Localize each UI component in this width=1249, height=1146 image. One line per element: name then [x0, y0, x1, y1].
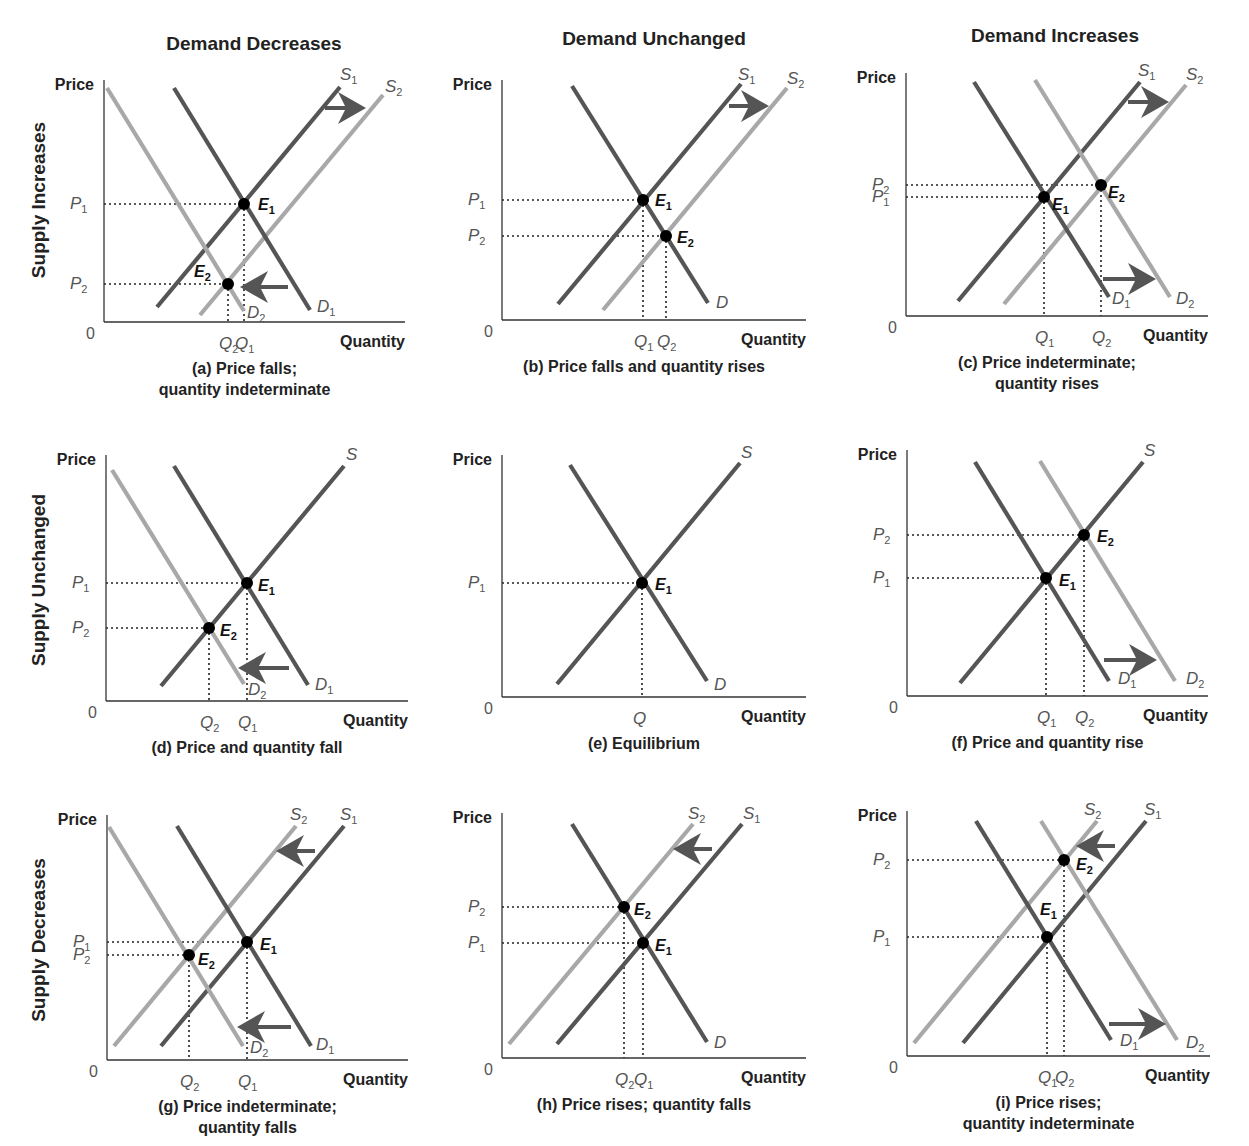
panel-caption: (e) Equilibrium: [588, 735, 700, 752]
curve-label-s2: S2: [688, 804, 705, 825]
curve-label-s1: S1: [340, 805, 357, 826]
panel-d: PriceQuantity0SD1D2E1E2P1P2Q2Q1(d) Price…: [57, 445, 408, 756]
price-tick-label: P2: [873, 850, 890, 871]
quantity-axis-label: Quantity: [340, 333, 405, 350]
quantity-tick-label: Q2: [1055, 1068, 1074, 1089]
curve-s1: [557, 824, 742, 1044]
quantity-tick-label: Q1: [238, 713, 257, 734]
curve-s2: [603, 88, 787, 310]
panel-caption: (h) Price rises; quantity falls: [537, 1096, 751, 1113]
panel-caption: (a) Price falls;: [192, 360, 297, 377]
panel-i: PriceQuantity0S2S1D1D2E1E2P2P1Q1Q2(i) Pr…: [858, 800, 1210, 1132]
panel-e: PriceQuantity0SDE1P1Q(e) Equilibrium: [453, 443, 806, 752]
quantity-axis-label: Quantity: [741, 331, 806, 348]
equilibrium-label-e2: E2: [194, 263, 211, 283]
price-tick-label: P1: [873, 927, 890, 948]
equilibrium-label-e2: E2: [220, 622, 237, 642]
quantity-tick-label: Q1: [238, 1072, 257, 1093]
quantity-tick-label: Q: [633, 709, 646, 728]
curve-d: [572, 86, 708, 303]
quantity-tick-label: Q1: [235, 334, 254, 355]
curve-label-d1: D1: [1118, 669, 1136, 690]
equilibrium-point-e2: [203, 622, 215, 634]
curve-label-d: D: [716, 293, 728, 312]
equilibrium-label-e1: E1: [1059, 572, 1076, 592]
curve-label-d1: D1: [316, 1035, 334, 1056]
curve-label-d2: D2: [1176, 289, 1194, 310]
equilibrium-label-e2: E2: [677, 229, 694, 249]
price-axis-label: Price: [453, 451, 492, 468]
price-axis-label: Price: [57, 451, 96, 468]
equilibrium-label-e1: E1: [655, 937, 672, 957]
quantity-tick-label: Q1: [1037, 708, 1056, 729]
origin-label: 0: [88, 704, 97, 721]
equilibrium-point-e2: [1058, 854, 1070, 866]
curve-label-s1: S1: [1138, 61, 1155, 82]
quantity-axis-label: Quantity: [1145, 1067, 1210, 1084]
column-header-demand-increases: Demand Increases: [971, 25, 1139, 46]
curve-label-d2: D2: [1186, 1033, 1204, 1054]
equilibrium-label-e1: E1: [1040, 901, 1057, 921]
price-axis-label: Price: [55, 76, 94, 93]
equilibrium-point-e1: [1038, 191, 1050, 203]
quantity-axis-label: Quantity: [741, 1069, 806, 1086]
curve-d2: [107, 88, 244, 311]
equilibrium-label-e2: E2: [634, 901, 651, 921]
curve-label-d: D: [714, 1033, 726, 1052]
origin-label: 0: [86, 325, 95, 342]
curve-d1: [975, 462, 1109, 681]
panel-a: PriceQuantity0S1S2D1D2E1E2P1P2Q2Q1(a) Pr…: [55, 65, 405, 398]
curve-s1: [558, 84, 741, 304]
column-header-demand-decreases: Demand Decreases: [166, 33, 341, 54]
equilibrium-label-e1: E1: [655, 576, 672, 596]
curve-d1: [974, 82, 1109, 297]
origin-label: 0: [889, 699, 898, 716]
curve-s2: [509, 824, 693, 1044]
curve-s2: [914, 821, 1097, 1043]
equilibrium-label-e1: E1: [258, 196, 275, 216]
column-header-demand-unchanged: Demand Unchanged: [562, 28, 746, 49]
curve-label-s2: S2: [290, 805, 307, 826]
curve-d2: [109, 827, 243, 1046]
origin-label: 0: [89, 1063, 98, 1080]
curve-d2: [1040, 461, 1175, 681]
curve-label-d1: D1: [315, 675, 333, 696]
quantity-tick-label: Q1: [1035, 328, 1054, 349]
origin-label: 0: [484, 700, 493, 717]
equilibrium-point-e1: [1040, 572, 1052, 584]
origin-label: 0: [484, 323, 493, 340]
equilibrium-label-e1: E1: [258, 577, 275, 597]
equilibrium-label-e2: E2: [198, 951, 215, 971]
row-header-supply-increases: Supply Increases: [28, 122, 49, 278]
price-axis-label: Price: [58, 811, 97, 828]
curve-label-d1: D1: [1112, 289, 1130, 310]
origin-label: 0: [889, 1059, 898, 1076]
panel-caption: (g) Price indeterminate;: [158, 1098, 337, 1115]
quantity-tick-label: Q1: [634, 332, 653, 353]
row-header-supply-unchanged: Supply Unchanged: [28, 494, 49, 666]
curve-label-d2: D2: [247, 303, 265, 324]
equilibrium-point-e1: [637, 937, 649, 949]
price-tick-label: P2: [873, 525, 890, 546]
equilibrium-point-e2: [660, 230, 672, 242]
row-header-supply-decreases: Supply Decreases: [28, 858, 49, 1022]
curve-d1: [174, 466, 308, 685]
origin-label: 0: [888, 319, 897, 336]
equilibrium-point-e2: [1078, 529, 1090, 541]
curve-label-s: S: [1144, 441, 1156, 460]
panel-c: PriceQuantity0S1S2D1D2E1E2P2P1Q1Q2(c) Pr…: [857, 61, 1208, 392]
curve-label-d2: D2: [1186, 669, 1204, 690]
price-tick-label: P1: [873, 568, 890, 589]
panel-caption: (c) Price indeterminate;: [958, 354, 1136, 371]
price-axis-label: Price: [453, 809, 492, 826]
figure-canvas: Demand Decreases Demand Unchanged Demand…: [0, 0, 1249, 1146]
curve-d1: [177, 826, 311, 1046]
panel-g: PriceQuantity0S2S1D1D2E1E2P1P2Q2Q1(g) Pr…: [58, 805, 408, 1136]
equilibrium-point-e2: [1095, 179, 1107, 191]
curve-label-d2: D2: [248, 680, 266, 701]
price-tick-label: P2: [468, 897, 485, 918]
panel-b: PriceQuantity0S1S2DE1E2P1P2Q1Q2(b) Price…: [453, 65, 806, 375]
quantity-tick-label: Q2: [200, 713, 219, 734]
price-tick-label: P1: [70, 194, 87, 215]
price-axis-label: Price: [858, 446, 897, 463]
